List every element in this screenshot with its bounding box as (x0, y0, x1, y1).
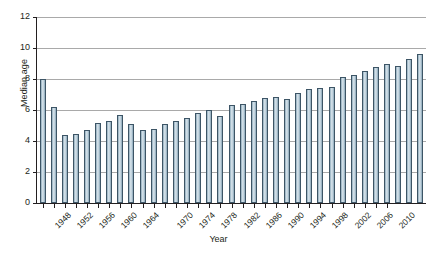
x-tick-mark (76, 204, 77, 208)
bar (251, 101, 257, 203)
y-tick-label-8: 8 (0, 73, 30, 83)
x-tick-mark (376, 204, 377, 208)
x-tick-mark (332, 204, 333, 208)
bar (384, 64, 390, 204)
x-axis-title: Year (0, 234, 437, 244)
bar (128, 124, 134, 203)
x-tick-mark (387, 204, 388, 208)
x-tick-label-1956: 1956 (97, 210, 117, 230)
bar (73, 134, 79, 203)
x-tick-mark (109, 204, 110, 208)
bar (184, 118, 190, 203)
x-tick-mark (65, 204, 66, 208)
bar (295, 93, 301, 203)
bar (229, 105, 235, 203)
x-tick-label-2002: 2002 (352, 210, 372, 230)
gridline-10 (37, 48, 426, 49)
x-tick-mark (131, 204, 132, 208)
x-tick-mark (354, 204, 355, 208)
x-tick-mark (187, 204, 188, 208)
y-tick-label-12: 12 (0, 11, 30, 21)
bar (106, 121, 112, 203)
x-tick-label-1986: 1986 (263, 210, 283, 230)
x-tick-mark (120, 204, 121, 208)
bar (40, 79, 46, 203)
bar-chart-figure: Median age 024681012 1948195219561960196… (0, 0, 437, 254)
x-tick-label-1948: 1948 (52, 210, 72, 230)
x-tick-mark (43, 204, 44, 208)
y-tick-label-6: 6 (0, 104, 30, 114)
y-axis-title: Median age (19, 23, 29, 143)
y-tick-label-0: 0 (0, 197, 30, 207)
x-tick-mark (298, 204, 299, 208)
bar (351, 75, 357, 203)
x-tick-label-2010: 2010 (397, 210, 417, 230)
bar (117, 115, 123, 203)
y-tick-label-2: 2 (0, 166, 30, 176)
x-tick-label-1974: 1974 (197, 210, 217, 230)
x-tick-mark (276, 204, 277, 208)
x-tick-label-1982: 1982 (241, 210, 261, 230)
y-tick-label-4: 4 (0, 135, 30, 145)
bar (284, 99, 290, 203)
x-tick-label-1960: 1960 (119, 210, 139, 230)
x-tick-mark (320, 204, 321, 208)
x-tick-label-1970: 1970 (174, 210, 194, 230)
x-tick-mark (154, 204, 155, 208)
bar (51, 107, 57, 203)
bar (84, 130, 90, 203)
bar (329, 87, 335, 203)
bar (417, 54, 423, 203)
bar (273, 97, 279, 203)
x-tick-mark (365, 204, 366, 208)
x-tick-mark (143, 204, 144, 208)
bar (95, 123, 101, 203)
x-tick-label-2006: 2006 (374, 210, 394, 230)
bar (140, 130, 146, 203)
x-tick-mark (254, 204, 255, 208)
x-tick-label-1990: 1990 (285, 210, 305, 230)
bar (340, 77, 346, 203)
bar (317, 88, 323, 203)
bar (62, 135, 68, 203)
x-tick-label-1998: 1998 (330, 210, 350, 230)
bar (395, 66, 401, 203)
x-tick-mark (209, 204, 210, 208)
y-tick-label-10: 10 (0, 42, 30, 52)
plot-area (37, 17, 426, 203)
bar (306, 89, 312, 203)
x-tick-label-1952: 1952 (74, 210, 94, 230)
x-tick-mark (243, 204, 244, 208)
bar (151, 129, 157, 203)
x-tick-mark (287, 204, 288, 208)
bar (206, 110, 212, 203)
x-tick-mark (165, 204, 166, 208)
x-tick-mark (54, 204, 55, 208)
bar (240, 104, 246, 203)
gridline-12 (37, 17, 426, 18)
bar (373, 67, 379, 203)
bar (217, 116, 223, 203)
x-tick-label-1978: 1978 (219, 210, 239, 230)
x-tick-mark (98, 204, 99, 208)
x-tick-mark (343, 204, 344, 208)
bar (173, 121, 179, 203)
x-tick-label-1994: 1994 (308, 210, 328, 230)
x-tick-label-1964: 1964 (141, 210, 161, 230)
x-tick-mark (309, 204, 310, 208)
x-tick-mark (220, 204, 221, 208)
bar (406, 59, 412, 203)
x-tick-mark (176, 204, 177, 208)
x-tick-mark (232, 204, 233, 208)
bar (195, 113, 201, 203)
bar (262, 98, 268, 203)
x-tick-mark (87, 204, 88, 208)
x-tick-mark (198, 204, 199, 208)
x-tick-mark (265, 204, 266, 208)
bar (362, 71, 368, 203)
bar (162, 124, 168, 203)
